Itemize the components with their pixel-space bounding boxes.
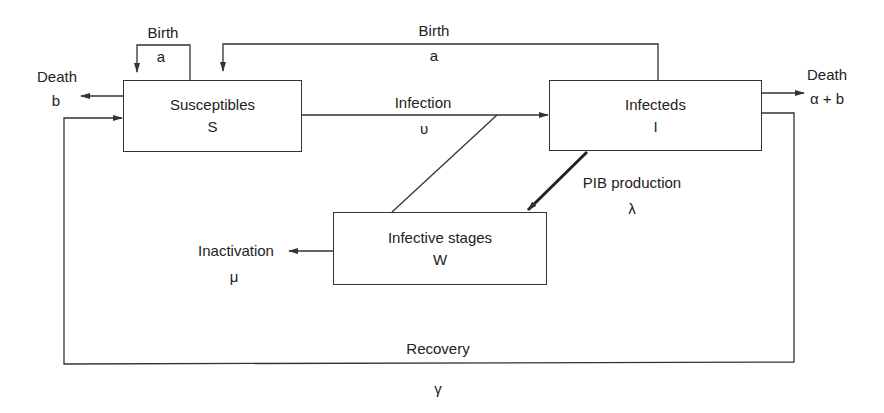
pib-production-param: λ (622, 198, 642, 220)
infecteds-box: Infecteds I (549, 80, 762, 151)
infective-link-line (392, 115, 497, 212)
susceptibles-symbol: S (207, 116, 217, 138)
death-s-param: b (46, 90, 66, 112)
infection-label: Infection (393, 92, 453, 114)
death-i-label: Death (802, 64, 852, 86)
death-i-param: α + b (800, 88, 854, 110)
infective-stages-name: Infective stages (388, 227, 492, 249)
birth-s-param: a (151, 46, 171, 68)
birth-i-param: a (424, 45, 444, 67)
infective-stages-box: Infective stages W (333, 212, 547, 285)
inactivation-label: Inactivation (188, 240, 284, 262)
susceptibles-name: Susceptibles (170, 94, 255, 116)
infecteds-symbol: I (653, 116, 657, 138)
infective-stages-symbol: W (433, 249, 447, 271)
infecteds-name: Infecteds (625, 94, 686, 116)
birth-s-label: Birth (143, 22, 183, 44)
pib-production-label: PIB production (572, 172, 692, 194)
birth-i-label: Birth (414, 20, 454, 42)
recovery-param: γ (428, 378, 448, 400)
inactivation-param: μ (224, 266, 244, 288)
recovery-label: Recovery (398, 338, 478, 360)
infection-param: υ (414, 118, 434, 140)
susceptibles-box: Susceptibles S (123, 80, 302, 152)
death-s-label: Death (32, 66, 82, 88)
